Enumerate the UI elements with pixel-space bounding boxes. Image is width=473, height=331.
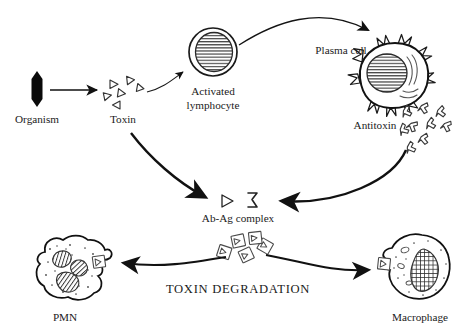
toxin-cluster: [103, 76, 144, 109]
label-toxin: Toxin: [110, 113, 136, 125]
macrophage-cell: [377, 234, 449, 299]
label-macrophage: Macrophage: [392, 311, 448, 323]
pmn-cell: [37, 236, 112, 300]
arrow-complex-to-pmn: [124, 257, 226, 265]
label-toxin-degradation: TOXIN DEGRADATION: [166, 283, 310, 297]
label-ab-ag-complex: Ab-Ag complex: [202, 212, 274, 224]
ab-ag-complex-glyph: [222, 193, 257, 207]
label-activated-lymphocyte-line1: Activated: [191, 85, 235, 97]
arrow-lymphocyte-to-plasma-cell: [239, 18, 368, 45]
degradation-complex-cluster: [216, 231, 273, 263]
arrow-toxin-to-lymphocyte: [147, 72, 183, 92]
arrow-antitoxin-to-complex: [282, 150, 406, 201]
label-activated-lymphocyte-line2: lymphocyte: [187, 99, 240, 111]
arrow-toxin-to-complex: [131, 133, 205, 197]
antitoxin-cluster: [396, 101, 453, 154]
label-plasma-cell: Plasma cell: [315, 44, 366, 56]
activated-lymphocyte-cell: [189, 28, 237, 76]
diagram-canvas: Organism Toxin Activated lymphocyte Plas…: [0, 0, 473, 331]
arrow-complex-to-macrophage: [266, 255, 368, 270]
label-organism: Organism: [15, 113, 59, 125]
label-pmn: PMN: [53, 311, 77, 323]
label-antitoxin: Antitoxin: [354, 119, 397, 131]
organism-glyph: [32, 71, 43, 107]
